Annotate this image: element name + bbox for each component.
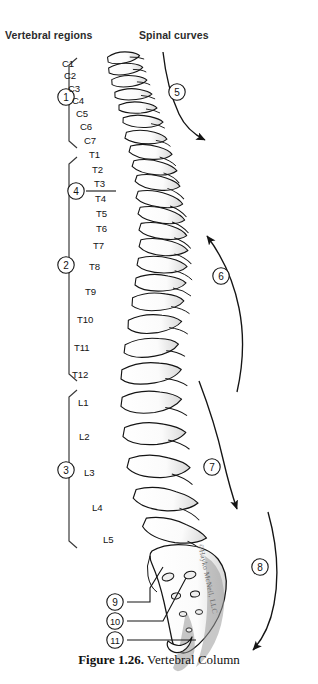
vertebra-label-t4: T4 bbox=[95, 193, 106, 204]
vertebra-label-l5: L5 bbox=[103, 534, 113, 545]
vertebra-label-c3: C3 bbox=[68, 83, 80, 94]
callout-11-coccyx-number: 11 bbox=[110, 636, 120, 646]
vertebra-label-c7: C7 bbox=[84, 135, 96, 146]
callout-7-lumbar-curve-number: 7 bbox=[209, 462, 215, 473]
vertebra-label-t10: T10 bbox=[77, 314, 93, 325]
curve-arrow-8 bbox=[253, 512, 277, 650]
callout-6-thoracic-curve[interactable]: 6 bbox=[213, 268, 229, 284]
figure-caption-label: Figure 1.26. bbox=[78, 652, 144, 667]
vertebra-label-c2: C2 bbox=[64, 70, 76, 81]
vertebra-label-t1: T1 bbox=[89, 149, 100, 160]
region-marker-3-number: 3 bbox=[63, 465, 69, 476]
vertebra-label-c5: C5 bbox=[76, 108, 88, 119]
vertebral-column-illustration: 1234567891011 bbox=[0, 0, 318, 684]
vertebra-label-t12: T12 bbox=[72, 369, 88, 380]
cervical-vertebrae-group bbox=[107, 49, 171, 146]
callout-7-lumbar-curve[interactable]: 7 bbox=[204, 459, 220, 475]
callout-9-sacrum-number: 9 bbox=[112, 597, 118, 608]
curve-arrow-6 bbox=[207, 236, 243, 392]
vertebra-label-t5: T5 bbox=[96, 208, 107, 219]
region-marker-3[interactable]: 3 bbox=[58, 462, 74, 478]
vertebra-label-c1: C1 bbox=[62, 58, 74, 69]
region-marker-2[interactable]: 2 bbox=[58, 257, 74, 273]
callout-9-sacrum[interactable]: 9 bbox=[107, 594, 123, 610]
callout-4-vertebra-detail-number: 4 bbox=[73, 186, 79, 197]
figure-caption-title: Vertebral Column bbox=[147, 652, 240, 667]
lumbar-vertebrae-group bbox=[119, 358, 210, 554]
callout-4-vertebra-detail[interactable]: 4 bbox=[68, 183, 84, 199]
vertebra-label-t2: T2 bbox=[92, 164, 103, 175]
vertebra-label-t9: T9 bbox=[85, 286, 96, 297]
curve-arrow-7 bbox=[199, 381, 237, 509]
vertebra-label-t11: T11 bbox=[74, 342, 90, 353]
vertebra-label-c4: C4 bbox=[72, 95, 84, 106]
vertebra-label-l1: L1 bbox=[78, 397, 88, 408]
callout-6-thoracic-curve-number: 6 bbox=[218, 271, 224, 282]
vertebra-label-l4: L4 bbox=[92, 502, 102, 513]
callout-5-cervical-curve-number: 5 bbox=[174, 87, 180, 98]
callout-8-sacral-curve[interactable]: 8 bbox=[252, 559, 268, 575]
vertebra-label-t6: T6 bbox=[96, 223, 107, 234]
figure-caption: Figure 1.26. Vertebral Column bbox=[0, 652, 318, 668]
vertebra-label-l2: L2 bbox=[79, 431, 89, 442]
vertebra-label-l3: L3 bbox=[84, 467, 94, 478]
vertebra-label-t8: T8 bbox=[89, 261, 100, 272]
callout-5-cervical-curve[interactable]: 5 bbox=[169, 84, 185, 100]
callout-8-sacral-curve-number: 8 bbox=[257, 562, 263, 573]
callout-10-sacral-foramen[interactable]: 10 bbox=[107, 613, 123, 629]
callout-10-sacral-foramen-number: 10 bbox=[110, 617, 120, 627]
vertebra-label-c6: C6 bbox=[80, 121, 92, 132]
callout-11-coccyx[interactable]: 11 bbox=[107, 632, 123, 648]
thoracic-vertebrae-group bbox=[123, 143, 194, 364]
vertebra-label-t7: T7 bbox=[93, 240, 104, 251]
region-marker-2-number: 2 bbox=[63, 260, 69, 271]
vertebra-label-t3: T3 bbox=[94, 178, 105, 189]
